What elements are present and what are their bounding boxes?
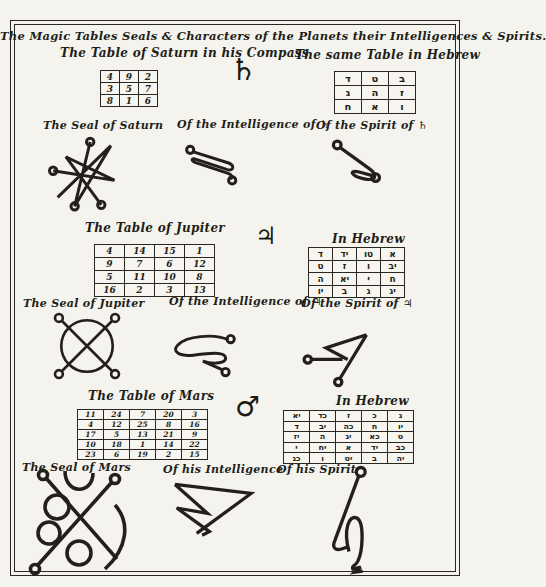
magic-square-cell: יה	[388, 453, 414, 464]
jupiter-intelligence-label: Of the Intelligence of ♃	[169, 295, 322, 308]
magic-square-cell: 5	[120, 83, 139, 95]
jupiter-hebrew-table-label: In Hebrew	[332, 232, 405, 246]
saturn-intelligence-sigil-icon	[183, 145, 243, 187]
magic-square-cell: 22	[182, 440, 208, 450]
magic-square-cell: 1	[185, 245, 215, 258]
magic-square-cell: ז	[336, 411, 362, 422]
jupiter-magic-square: 41415197612511108162313	[94, 244, 215, 297]
saturn-seal-sigil-icon	[46, 136, 124, 210]
magic-square-cell: 6	[155, 258, 185, 271]
magic-square-cell: א	[362, 100, 389, 114]
magic-square-cell: יז	[284, 432, 310, 443]
magic-square-cell: 15	[155, 245, 185, 258]
jupiter-symbol-icon: ♃	[255, 222, 277, 250]
magic-square-cell: 8	[156, 420, 182, 430]
magic-square-cell: 8	[101, 95, 120, 107]
mars-table-label: The Table of Mars	[88, 389, 214, 403]
magic-square-cell: 5	[95, 271, 125, 284]
jupiter-table-label: The Table of Jupiter	[85, 221, 225, 235]
saturn-hebrew-square: דטבגהזחאו	[334, 71, 416, 114]
magic-square-cell: 7	[130, 410, 156, 420]
magic-square-cell: 12	[185, 258, 215, 271]
jupiter-spirit-sigil-icon	[300, 329, 375, 387]
magic-square-cell: 20	[156, 410, 182, 420]
magic-square-cell: יט	[336, 453, 362, 464]
magic-square-cell: ב	[333, 285, 357, 298]
magic-square-cell: ט	[362, 72, 389, 86]
magic-square-cell: 2	[139, 71, 158, 83]
magic-square-cell: 4	[101, 71, 120, 83]
jupiter-hebrew-square: דידטואטזויבהיאיחיובגיג	[308, 247, 405, 298]
magic-square-cell: ג	[357, 285, 381, 298]
magic-square-cell: כב	[388, 442, 414, 453]
magic-square-cell: ב	[362, 453, 388, 464]
magic-square-cell: טו	[357, 248, 381, 261]
saturn-table-label: The Table of Saturn in his Compass	[60, 46, 309, 60]
magic-square-cell: 19	[130, 450, 156, 460]
magic-square-cell: 11	[125, 271, 155, 284]
magic-square-cell: 4	[95, 245, 125, 258]
saturn-hebrew-table-label: The same Table in Hebrew	[295, 48, 480, 62]
saturn-spirit-label: Of the Spirit of ♄	[316, 119, 428, 132]
magic-square-cell: יב	[310, 421, 336, 432]
magic-square-cell: 7	[125, 258, 155, 271]
jupiter-spirit-label: Of the Spirit of ♃	[301, 297, 413, 310]
magic-square-cell: 14	[125, 245, 155, 258]
magic-square-cell: יב	[381, 260, 405, 273]
magic-square-cell: ד	[309, 248, 333, 261]
magic-square-cell: כ	[362, 411, 388, 422]
magic-square-cell: יג	[381, 285, 405, 298]
magic-square-cell: יו	[388, 421, 414, 432]
jupiter-seal-sigil-icon	[48, 310, 126, 382]
magic-square-cell: ד	[284, 421, 310, 432]
magic-square-cell: כד	[310, 411, 336, 422]
magic-square-cell: ה	[309, 273, 333, 286]
magic-square-cell: ה	[362, 86, 389, 100]
magic-square-cell: 9	[182, 430, 208, 440]
mars-symbol-icon: ♂	[235, 390, 260, 423]
magic-square-cell: 9	[120, 71, 139, 83]
saturn-symbol-icon: ♄	[230, 52, 257, 87]
magic-square-cell: ג	[388, 411, 414, 422]
magic-square-cell: א	[336, 442, 362, 453]
magic-square-cell: יד	[362, 442, 388, 453]
magic-square-cell: 25	[130, 420, 156, 430]
magic-square-cell: 16	[182, 420, 208, 430]
magic-square-cell: ז	[389, 86, 416, 100]
magic-square-cell: 7	[139, 83, 158, 95]
magic-square-cell: 21	[156, 430, 182, 440]
magic-square-cell: ח	[381, 273, 405, 286]
magic-square-cell: 1	[130, 440, 156, 450]
magic-square-cell: ה	[310, 432, 336, 443]
mars-hebrew-square: יאכדזכגדיבכהחיויזהיגכאטייחאידכבכגויטביה	[283, 410, 414, 464]
mars-intelligence-label: Of his Intelligence	[163, 463, 283, 476]
magic-square-cell: י	[284, 442, 310, 453]
magic-square-cell: 17	[78, 430, 104, 440]
magic-square-cell: יא	[333, 273, 357, 286]
magic-square-cell: 1	[120, 95, 139, 107]
magic-square-cell: 3	[101, 83, 120, 95]
magic-square-cell: א	[381, 248, 405, 261]
magic-square-cell: ט	[309, 260, 333, 273]
page-title: The Magic Tables Seals & Characters of t…	[0, 29, 471, 43]
magic-square-cell: 9	[95, 258, 125, 271]
magic-square-cell: ז	[333, 260, 357, 273]
magic-square-cell: 10	[78, 440, 104, 450]
saturn-magic-square: 492357816	[100, 70, 158, 107]
magic-square-cell: 16	[95, 284, 125, 297]
magic-square-cell: 13	[130, 430, 156, 440]
magic-square-cell: 14	[156, 440, 182, 450]
magic-square-cell: 8	[185, 271, 215, 284]
saturn-seal-label: The Seal of Saturn	[43, 119, 163, 132]
magic-square-cell: יד	[333, 248, 357, 261]
mars-magic-square: 1124720341225816175132191018114222361921…	[77, 409, 208, 460]
magic-square-cell: ו	[389, 100, 416, 114]
magic-square-cell: ד	[335, 72, 362, 86]
magic-square-cell: כא	[362, 432, 388, 443]
magic-square-cell: ב	[389, 72, 416, 86]
magic-square-cell: 2	[156, 450, 182, 460]
mars-spirit-sigil-icon	[316, 467, 378, 575]
magic-square-cell: ג	[335, 86, 362, 100]
magic-square-cell: כה	[336, 421, 362, 432]
